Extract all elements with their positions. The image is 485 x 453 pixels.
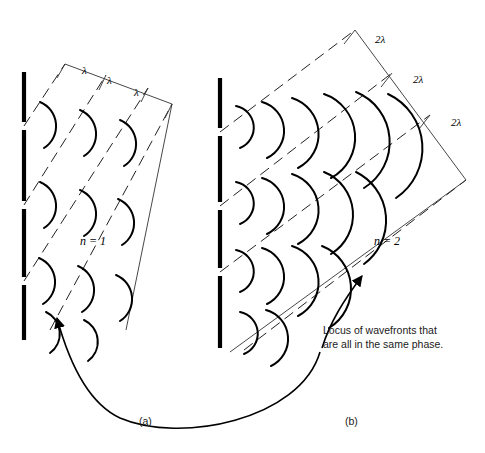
panel-b-lambda-label-1: 2λ bbox=[375, 33, 385, 47]
panel-a-lambda-label-1: λ bbox=[82, 64, 87, 78]
wavelet-arc bbox=[40, 182, 56, 228]
wavelet-arc bbox=[84, 320, 98, 361]
wavelet-arc bbox=[40, 102, 56, 148]
edge-tick bbox=[419, 115, 430, 129]
wavefront-locus bbox=[24, 64, 65, 126]
panel-b-label: (b) bbox=[345, 415, 358, 428]
wavefront-locus bbox=[24, 75, 106, 205]
wavelet-arc bbox=[236, 182, 254, 224]
panel-a-lambda-label-2: λ bbox=[107, 74, 112, 88]
wavelet-arc bbox=[80, 190, 96, 236]
wavelet-arc bbox=[292, 174, 319, 244]
annotation-caption-line-1: Locus of wavefronts that bbox=[323, 324, 437, 337]
wave-diffraction-figure: λ λ λ n = 1 2λ 2λ 2λ n = 2 Locus of wave… bbox=[0, 0, 485, 453]
panel-a-group bbox=[24, 64, 172, 361]
wavefront-locus bbox=[50, 104, 172, 330]
wavelet-arc bbox=[120, 120, 136, 166]
annotation-arrows bbox=[57, 276, 362, 428]
wavelet-arc bbox=[240, 312, 258, 354]
wavelet-arc bbox=[262, 102, 284, 158]
wavelet-arc bbox=[324, 172, 353, 254]
wavelet-arc bbox=[78, 266, 94, 312]
panel-b-order-label: n = 2 bbox=[374, 234, 400, 249]
panel-a-label: (a) bbox=[139, 415, 152, 428]
wavefront-locus bbox=[24, 88, 148, 281]
diagram-canvas bbox=[0, 0, 485, 453]
wavelet-arc bbox=[388, 94, 422, 198]
wavelet-arc bbox=[80, 110, 96, 156]
wavelet-arc bbox=[262, 178, 284, 234]
wavelet-arc bbox=[236, 106, 254, 148]
wavelet-arc bbox=[356, 92, 390, 188]
wavelet-arc bbox=[292, 246, 319, 316]
wavelet-arc bbox=[118, 199, 134, 245]
wavelet-arc bbox=[262, 248, 284, 304]
panel-a-top-edge bbox=[57, 64, 172, 118]
panel-b-group bbox=[220, 30, 466, 366]
panel-a-wavelets bbox=[39, 102, 136, 361]
panel-a-lambda-label-3: λ bbox=[134, 86, 139, 100]
panel-b-lambda-label-3: 2λ bbox=[451, 116, 461, 130]
wavelet-arc bbox=[39, 258, 55, 304]
panel-a-order-label: n = 1 bbox=[80, 234, 106, 249]
outer-edge-line bbox=[355, 30, 466, 180]
wavelet-arc bbox=[324, 94, 355, 178]
wavelet-arc bbox=[356, 172, 386, 264]
annotation-caption-line-2: are all in the same phase. bbox=[323, 338, 443, 351]
panel-a-wavefront-loci bbox=[24, 64, 172, 330]
edge-tick bbox=[57, 64, 65, 78]
wavelet-arc bbox=[236, 250, 254, 292]
panel-b-lambda-label-2: 2λ bbox=[413, 73, 423, 87]
